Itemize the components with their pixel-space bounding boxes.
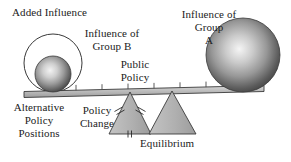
label-equilibrium: Equilibrium: [140, 137, 230, 150]
label-alternative-policy-positions: Alternative Policy Positions: [2, 101, 76, 140]
label-influence-of-group-b: Influence of Group B: [66, 27, 158, 53]
label-policy-change: Policy Change: [70, 104, 124, 130]
label-added-influence: Added Influence: [12, 6, 132, 19]
equilibrium-fulcrum: [149, 91, 196, 134]
group-b-sphere: [35, 56, 71, 92]
label-influence-of-group-a: Influence of Group A: [164, 8, 254, 47]
diagram-canvas: Added Influence Influence of Group B Pub…: [0, 0, 291, 162]
label-public-policy: Public Policy: [100, 58, 170, 84]
